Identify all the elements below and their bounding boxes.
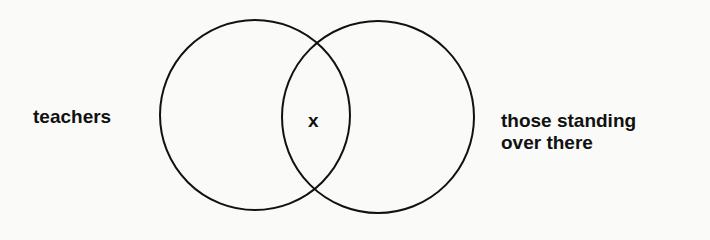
intersection-label: x (308, 110, 319, 132)
right-label-line-2: over there (501, 132, 636, 154)
teachers-circle (160, 20, 350, 210)
right-label-line-1: those standing (501, 110, 636, 132)
those-standing-over-there-label: those standing over there (501, 110, 636, 154)
teachers-label: teachers (33, 106, 111, 128)
